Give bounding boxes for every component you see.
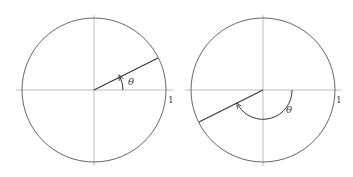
- unit-label: 1: [168, 95, 174, 105]
- unit-label: 1: [336, 95, 342, 105]
- right-unit-circle: θ 1: [185, 15, 342, 166]
- left-unit-circle: θ 1: [16, 15, 174, 166]
- ray: [94, 58, 158, 90]
- angle-arc: [238, 90, 292, 119]
- unit-circle-diagrams: θ 1 θ 1: [0, 0, 353, 177]
- angle-arc: [120, 77, 123, 90]
- theta-label: θ: [128, 76, 134, 87]
- theta-label: θ: [286, 104, 292, 115]
